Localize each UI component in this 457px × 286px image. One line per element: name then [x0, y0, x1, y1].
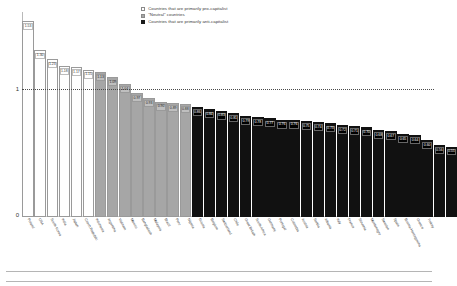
- bar-anti[interactable]: 0.79: [240, 116, 251, 217]
- bar-pro[interactable]: 1.30: [34, 50, 45, 217]
- bar-value-label: 0.72: [338, 127, 347, 134]
- bar-anti[interactable]: 0.83: [216, 111, 227, 217]
- bar-neutral[interactable]: 0.89: [167, 103, 178, 217]
- bar-value-label: 0.74: [314, 124, 323, 131]
- bar-value-label: 0.67: [386, 133, 395, 140]
- reference-line-at-1: [22, 89, 434, 90]
- bar-value-label: 0.76: [289, 122, 298, 129]
- bar-neutral[interactable]: 1.09: [107, 77, 118, 217]
- bar-neutral[interactable]: 1.13: [95, 72, 106, 217]
- bar-value-label: 1.15: [84, 72, 93, 79]
- bar-value-label: 0.75: [302, 123, 311, 130]
- bar-neutral[interactable]: 0.97: [131, 93, 142, 217]
- bar-cell: 1.17: [70, 12, 82, 217]
- x-label-cell: Turkey: [422, 218, 433, 264]
- x-label-cell: India: [56, 218, 67, 264]
- bar-value-label: 0.83: [217, 113, 226, 120]
- legend-label-pro: Countries that are primarily pro-capital…: [148, 7, 227, 11]
- bar-neutral[interactable]: 0.90: [155, 102, 166, 217]
- x-label-cell: Peru: [171, 218, 182, 264]
- bar-value-label: 0.71: [350, 128, 359, 135]
- bar-cell: 0.56: [433, 12, 445, 217]
- bar-cell: 1.13: [95, 12, 107, 217]
- bar-cell: 0.71: [349, 12, 361, 217]
- bar-pro[interactable]: 1.23: [47, 59, 58, 217]
- x-label-cell: Indonesia: [91, 218, 102, 264]
- bar-anti[interactable]: 0.55: [446, 147, 457, 217]
- bar-anti[interactable]: 0.77: [264, 118, 275, 217]
- bar-neutral[interactable]: 0.93: [143, 98, 154, 217]
- bar-cell: 1.04: [119, 12, 131, 217]
- bar-neutral[interactable]: 1.04: [119, 84, 130, 217]
- bar-anti[interactable]: 0.81: [228, 113, 239, 217]
- bar-anti[interactable]: 0.72: [337, 125, 348, 217]
- bar-anti[interactable]: 0.74: [313, 122, 324, 217]
- bar-anti[interactable]: 0.86: [192, 107, 203, 217]
- bar-cell: 0.76: [276, 12, 288, 217]
- x-axis-label: Peru: [174, 218, 181, 226]
- x-axis-label: Turkey: [426, 218, 434, 229]
- bar-cell: 0.78: [252, 12, 264, 217]
- bar-cell: 0.55: [445, 12, 457, 217]
- bar-value-label: 1.09: [108, 80, 117, 87]
- bar-anti[interactable]: 0.76: [288, 120, 299, 217]
- x-label-cell: Austria: [297, 218, 308, 264]
- x-label-cell: South Korea: [45, 218, 56, 264]
- bar-anti[interactable]: 0.56: [434, 145, 445, 217]
- bar-value-label: 0.84: [205, 112, 214, 119]
- bar-value-label: 1.18: [60, 68, 69, 75]
- x-axis-category-labels: PolandUSASouth KoreaIndiaJapanCzech Repu…: [22, 218, 434, 264]
- x-label-cell: Belgium: [205, 218, 216, 264]
- bar-anti[interactable]: 0.60: [421, 140, 432, 217]
- bar-anti[interactable]: 0.64: [409, 135, 420, 217]
- bar-anti[interactable]: 0.76: [276, 120, 287, 217]
- x-label-cell: Albania: [319, 218, 330, 264]
- legend-item-pro-capitalist: Countries that are primarily pro-capital…: [141, 7, 228, 11]
- bar-anti[interactable]: 0.73: [325, 123, 336, 217]
- bar-anti[interactable]: 0.68: [373, 130, 384, 217]
- bar-value-label: 1.30: [35, 53, 44, 60]
- legend-swatch-icon-neutral: [141, 14, 145, 18]
- bar-anti[interactable]: 0.67: [385, 131, 396, 217]
- bar-anti[interactable]: 0.78: [252, 117, 263, 217]
- bar-anti[interactable]: 0.65: [397, 134, 408, 217]
- bar-value-label: 1.13: [96, 74, 105, 81]
- bar-value-label: 0.65: [398, 136, 407, 143]
- bar-cell: 0.70: [361, 12, 373, 217]
- x-label-cell: South Africa: [251, 218, 262, 264]
- bar-value-label: 0.60: [422, 142, 431, 149]
- bar-value-label: 0.90: [156, 104, 165, 111]
- bar-value-label: 0.89: [168, 105, 177, 112]
- bar-cell: 0.90: [155, 12, 167, 217]
- bar-pro[interactable]: 1.15: [83, 70, 94, 217]
- x-label-cell: Great Britain: [239, 218, 250, 264]
- bar-anti[interactable]: 0.84: [204, 109, 215, 217]
- x-label-cell: Spain: [388, 218, 399, 264]
- bar-value-label: 0.78: [253, 119, 262, 126]
- x-axis-label: Spain: [392, 218, 399, 228]
- bar-pro[interactable]: 1.53: [22, 21, 33, 217]
- x-axis-label: USA: [37, 218, 44, 226]
- bar-anti[interactable]: 0.70: [361, 127, 372, 217]
- x-label-cell: Serbia: [308, 218, 319, 264]
- footer-divider-bottom: [6, 281, 432, 282]
- footer-divider-top: [6, 271, 432, 272]
- bar-value-label: 0.79: [241, 118, 250, 125]
- x-label-cell: Chile: [228, 218, 239, 264]
- legend-label-anti: Countries that are primarily anti-capita…: [148, 20, 228, 24]
- bar-cell: 0.74: [312, 12, 324, 217]
- bar-anti[interactable]: 0.75: [301, 121, 312, 217]
- bar-neutral[interactable]: 0.88: [180, 104, 191, 217]
- bar-cell: 0.72: [336, 12, 348, 217]
- bar-anti[interactable]: 0.71: [349, 126, 360, 217]
- bar-cell: 0.86: [191, 12, 203, 217]
- x-label-cell: Switzerland: [216, 218, 227, 264]
- legend-item-neutral: "Neutral" countries: [141, 13, 228, 17]
- x-label-cell: Portugal: [274, 218, 285, 264]
- x-label-cell: Greece: [411, 218, 422, 264]
- x-label-cell: Russia: [194, 218, 205, 264]
- x-label-cell: Japan: [68, 218, 79, 264]
- bar-value-label: 0.76: [277, 122, 286, 129]
- x-label-cell: Vietnam: [114, 218, 125, 264]
- legend-label-neutral: "Neutral" countries: [148, 13, 184, 17]
